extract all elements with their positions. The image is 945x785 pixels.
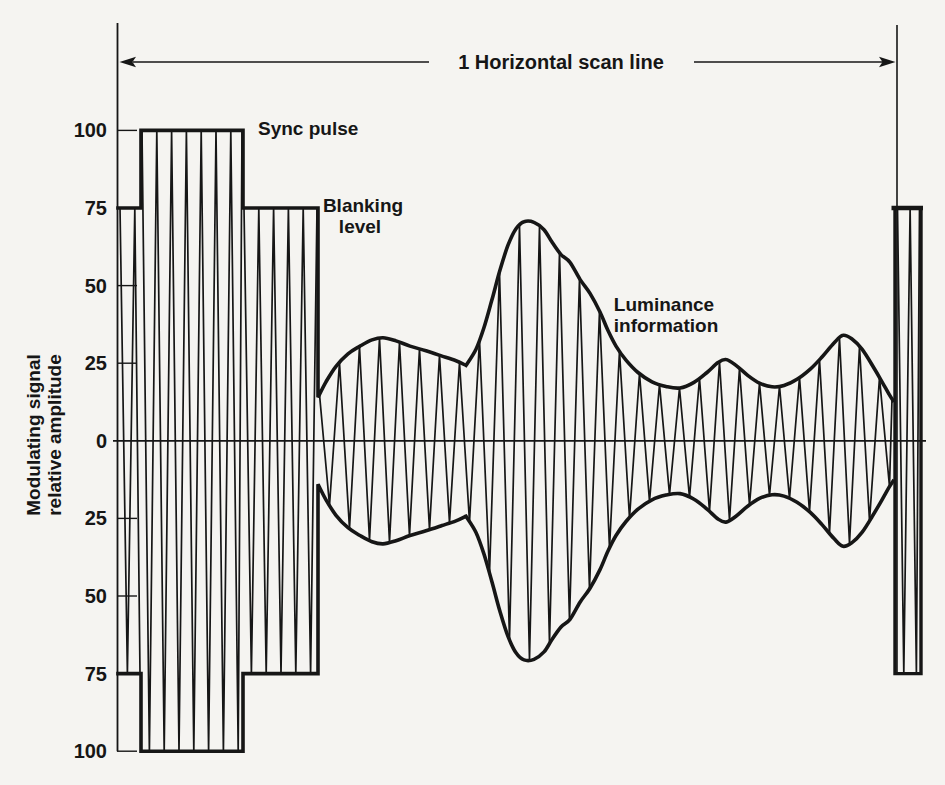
- y-tick-label: 50: [85, 585, 107, 607]
- y-axis-title: Modulating signal relative amplitude: [23, 354, 65, 516]
- axes: [113, 23, 926, 751]
- y-tick-label: 100: [74, 119, 107, 141]
- y-tick-label: 0: [96, 430, 107, 452]
- luminance-label-line2: information: [614, 315, 719, 336]
- y-tick-label: 100: [74, 740, 107, 762]
- waveform-figure: 1007550250255075100 Sync pulse Blanking …: [0, 0, 945, 785]
- y-tick-label: 50: [85, 275, 107, 297]
- blanking-level-label-line2: level: [339, 216, 381, 237]
- y-tick-label: 75: [85, 663, 107, 685]
- figure-stage: 1007550250255075100 Sync pulse Blanking …: [0, 0, 945, 785]
- horizontal-scan-line-label: 1 Horizontal scan line: [458, 51, 664, 73]
- sync-pulse-label: Sync pulse: [258, 118, 358, 139]
- y-tick-label: 25: [85, 507, 107, 529]
- y-axis-title-line2: relative amplitude: [44, 354, 65, 516]
- y-tick-label: 25: [85, 352, 107, 374]
- y-tick-labels: 1007550250255075100: [74, 119, 107, 762]
- y-tick-label: 75: [85, 197, 107, 219]
- blanking-level-label-line1: Blanking: [323, 195, 403, 216]
- luminance-label-line1: Luminance: [614, 294, 714, 315]
- y-axis-title-line1: Modulating signal: [23, 354, 44, 516]
